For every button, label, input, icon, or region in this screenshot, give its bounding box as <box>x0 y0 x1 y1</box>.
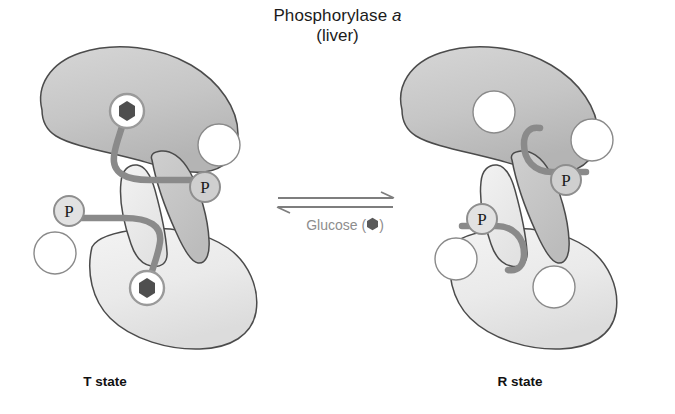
glucose-hexagon-icon <box>366 217 379 231</box>
t-lower-phosphate: P <box>54 196 84 226</box>
diagram-canvas: P P <box>0 0 675 414</box>
t-state-group: P P <box>34 47 257 349</box>
t-state-label: T state <box>25 374 185 389</box>
t-lower-subunit-body <box>90 228 257 349</box>
r-upper-phosphate-label: P <box>561 171 570 190</box>
r-lower-allosteric-site <box>435 238 477 280</box>
r-upper-phosphate: P <box>551 165 581 195</box>
equilibrium-arrow <box>277 192 394 213</box>
r-upper-catalytic-site <box>473 91 515 133</box>
r-lower-phosphate: P <box>467 204 497 234</box>
t-upper-allosteric-site <box>198 124 240 166</box>
phosphorylase-diagram: Phosphorylase a (liver) <box>0 0 675 414</box>
r-upper-allosteric-site <box>571 119 613 161</box>
caption-close-paren: ) <box>379 217 384 233</box>
r-lower-phosphate-label: P <box>477 210 486 229</box>
t-lower-phosphate-label: P <box>64 202 73 221</box>
t-upper-phosphate: P <box>190 172 220 202</box>
equilibrium-caption-text: Glucose <box>306 217 361 233</box>
r-state-group: P P <box>401 47 617 349</box>
equilibrium-caption: Glucose () <box>275 217 415 233</box>
t-lower-allosteric-site <box>34 232 76 274</box>
t-upper-phosphate-label: P <box>200 178 209 197</box>
r-lower-catalytic-site <box>533 266 575 308</box>
r-state-label: R state <box>440 374 600 389</box>
